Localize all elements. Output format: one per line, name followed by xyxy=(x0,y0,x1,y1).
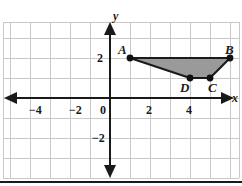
x-axis-label: x xyxy=(232,92,238,104)
y-tick-2: 2 xyxy=(97,52,103,64)
y-axis xyxy=(104,22,116,178)
x-tick-neg2: −2 xyxy=(69,104,82,116)
point-a xyxy=(127,55,134,62)
vertex-label-d: D xyxy=(180,81,189,94)
coordinate-plane-svg xyxy=(0,0,242,186)
x-tick-2: 2 xyxy=(146,104,152,116)
x-tick-neg4: −4 xyxy=(29,104,42,116)
y-tick-neg2: −2 xyxy=(92,132,105,144)
x-tick-4: 4 xyxy=(186,104,192,116)
y-axis-label: y xyxy=(113,10,118,22)
coordinate-plane-figure: x y −4 −2 0 2 4 2 −2 A B C D xyxy=(0,0,242,186)
vertex-label-a: A xyxy=(118,43,127,56)
origin-label: 0 xyxy=(100,104,106,116)
vertex-label-b: B xyxy=(225,43,234,56)
shaded-quadrilateral xyxy=(130,58,230,78)
vertex-label-c: C xyxy=(208,81,217,94)
